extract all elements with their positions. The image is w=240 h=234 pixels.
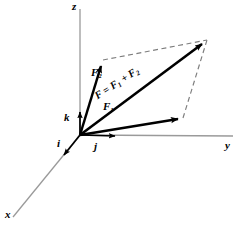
- figure-canvas: [0, 0, 240, 234]
- vector-f1-arrow: [80, 119, 178, 135]
- dashed-edge-from-f1: [183, 40, 207, 118]
- dashed-edge-from-f2: [103, 40, 207, 60]
- unit-vector-i-arrow: [64, 135, 80, 155]
- unit-vector-i-label: i: [57, 138, 60, 149]
- x-axis-label: x: [5, 209, 11, 220]
- y-axis-label: y: [225, 140, 230, 151]
- unit-vector-j-label: j: [94, 141, 97, 152]
- vector-f1-label-subscript: 1: [110, 106, 114, 114]
- vector-addition-figure: z y x k j i F1 F2 F = F1 + F2: [0, 0, 240, 234]
- vector-f2-label: F2: [91, 67, 102, 78]
- axes-group: [13, 9, 233, 217]
- vector-f2-label-subscript: 2: [98, 72, 102, 80]
- vector-f1-label: F1: [103, 101, 114, 112]
- z-axis-label: z: [72, 1, 76, 12]
- unit-vector-k-label: k: [64, 112, 70, 123]
